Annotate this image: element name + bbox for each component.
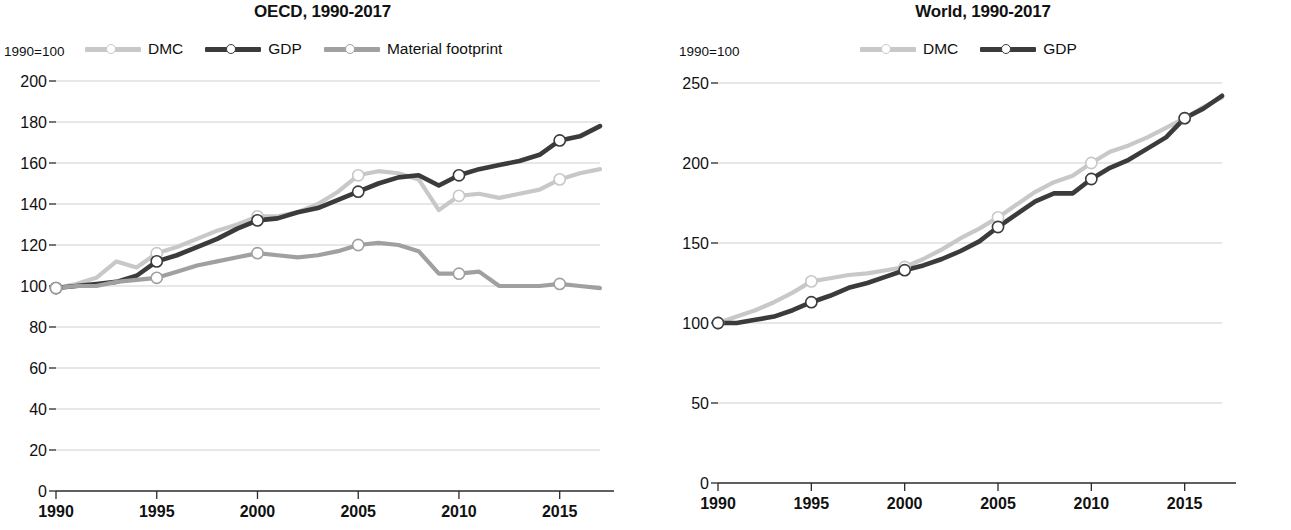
data-point-marker [554, 174, 565, 185]
data-point-marker [50, 282, 61, 293]
y-axis-tick-label: 180 [20, 114, 47, 131]
y-axis-tick-label: 250 [682, 75, 709, 92]
data-point-marker [712, 317, 723, 328]
y-axis-tick-label: 80 [29, 319, 47, 336]
y-axis-tick-label: 40 [29, 401, 47, 418]
x-axis-tick-label: 2000 [887, 495, 923, 512]
x-axis-tick-label: 1995 [139, 503, 175, 520]
x-axis-tick-label: 2010 [1074, 495, 1110, 512]
data-line-dmc [718, 97, 1222, 323]
y-axis-tick-label: 100 [682, 315, 709, 332]
data-point-marker [353, 239, 364, 250]
two-panel-line-chart-figure: OECD, 1990-2017 1990=100 DMC GDP [0, 0, 1291, 530]
y-axis-tick-label: 20 [29, 442, 47, 459]
y-axis-tick-label: 100 [20, 278, 47, 295]
panel-oecd: OECD, 1990-2017 1990=100 DMC GDP [0, 0, 645, 530]
y-axis-tick-label: 200 [20, 73, 47, 90]
data-point-marker [806, 276, 817, 287]
x-axis-tick-label: 1990 [38, 503, 74, 520]
data-point-marker [151, 272, 162, 283]
data-point-marker [453, 170, 464, 181]
panel-oecd-plot: 0204060801001201401601802001990199520002… [0, 0, 645, 530]
y-axis-tick-label: 150 [682, 235, 709, 252]
data-point-marker [554, 135, 565, 146]
y-axis-tick-label: 140 [20, 196, 47, 213]
data-point-marker [1086, 173, 1097, 184]
data-line-gdp [56, 126, 600, 288]
y-axis-tick-label: 0 [38, 483, 47, 500]
y-axis-tick-label: 50 [691, 395, 709, 412]
data-point-marker [353, 186, 364, 197]
data-point-marker [151, 256, 162, 267]
x-axis-tick-label: 1995 [794, 495, 830, 512]
y-axis-tick-label: 60 [29, 360, 47, 377]
data-point-marker [453, 268, 464, 279]
x-axis-tick-label: 2000 [240, 503, 276, 520]
data-point-marker [252, 248, 263, 259]
x-axis-tick-label: 2015 [542, 503, 578, 520]
data-point-marker [806, 297, 817, 308]
x-axis-tick-label: 2005 [340, 503, 376, 520]
data-point-marker [992, 221, 1003, 232]
data-point-marker [1179, 113, 1190, 124]
data-line-gdp [718, 96, 1222, 323]
panel-world-plot: 050100150200250199019952000200520102015 [645, 0, 1291, 530]
y-axis-tick-label: 120 [20, 237, 47, 254]
data-point-marker [554, 278, 565, 289]
y-axis-tick-label: 200 [682, 155, 709, 172]
data-point-marker [353, 170, 364, 181]
x-axis-tick-label: 2010 [441, 503, 477, 520]
data-line-dmc [56, 169, 600, 288]
y-axis-tick-label: 0 [700, 475, 709, 492]
data-point-marker [899, 265, 910, 276]
x-axis-tick-label: 1990 [700, 495, 736, 512]
y-axis-tick-label: 160 [20, 155, 47, 172]
data-point-marker [1086, 157, 1097, 168]
panel-world: World, 1990-2017 1990=100 DMC GDP 050100… [645, 0, 1291, 530]
x-axis-tick-label: 2005 [980, 495, 1016, 512]
data-point-marker [453, 190, 464, 201]
x-axis-tick-label: 2015 [1167, 495, 1203, 512]
data-point-marker [252, 215, 263, 226]
